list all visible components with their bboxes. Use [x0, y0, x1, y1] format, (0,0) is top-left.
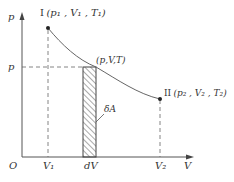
y-tick-p-label: p — [8, 61, 15, 72]
x-tick-v2-label: V₂ — [155, 160, 166, 171]
state-2-roman: II — [164, 88, 172, 98]
state-1-roman: I — [40, 7, 44, 18]
y-axis-arrow-icon — [20, 12, 25, 20]
x-tick-v1-label: V₁ — [43, 160, 54, 171]
x-tick-dv-label: dV — [84, 160, 99, 171]
state-2-values: (p₂ , V₂ , T₂) — [173, 88, 227, 98]
intermediate-point-label: (p,V,T) — [96, 55, 126, 65]
origin-label: O — [9, 160, 17, 171]
state-2-label: II (p₂ , V₂ , T₂) — [164, 88, 227, 98]
state-1-values: (p₁ , V₁ , T₁) — [46, 7, 105, 18]
x-axis-label: V — [184, 160, 193, 171]
state-1-label: I (p₁ , V₁ , T₁) — [40, 7, 106, 18]
axes — [20, 12, 195, 160]
pv-diagram: p p O V V₁ dV V₂ I (p₁ , V₁ , T₁) (p,V,T… — [0, 0, 234, 182]
x-axis-arrow-icon — [186, 155, 194, 160]
state-point-1 — [46, 26, 50, 30]
work-strip — [83, 67, 96, 157]
strip-leader-line — [96, 114, 104, 122]
y-axis-label: p — [8, 11, 15, 22]
strip-label: δA — [104, 104, 116, 114]
state-point-2 — [158, 97, 162, 101]
